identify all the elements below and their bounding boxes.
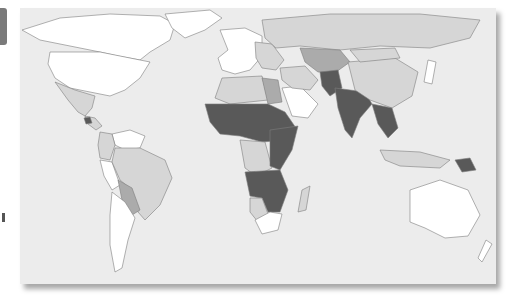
region-australia	[410, 180, 480, 238]
region-southeast-asia	[372, 104, 398, 138]
region-papua	[455, 158, 476, 172]
region-north-africa	[215, 76, 268, 104]
region-new-zealand	[478, 240, 492, 262]
region-colombia	[98, 132, 115, 160]
region-venezuela	[112, 130, 145, 150]
region-east-africa	[270, 126, 298, 170]
region-russia	[262, 14, 480, 50]
region-japan	[424, 60, 436, 84]
region-indonesia	[380, 150, 450, 168]
region-madagascar	[298, 186, 310, 212]
region-greenland	[165, 10, 222, 38]
region-middle-east	[280, 66, 318, 90]
region-arabia	[282, 86, 318, 118]
world-map	[0, 0, 512, 305]
